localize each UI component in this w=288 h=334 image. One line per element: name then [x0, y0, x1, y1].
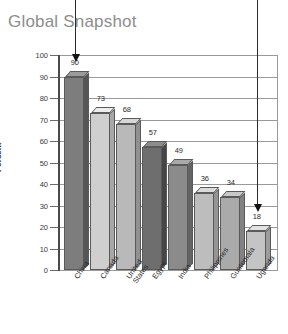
- y-axis-tick-label: 30: [22, 201, 48, 210]
- y-axis-tick-label: 40: [22, 180, 48, 189]
- y-axis-tick: [50, 184, 58, 185]
- y-axis-tick-label: 80: [22, 94, 48, 103]
- y-axis-tick: [50, 55, 58, 56]
- y-axis-tick-label: 0: [22, 266, 48, 275]
- y-axis-tick-label: 50: [22, 158, 48, 167]
- bar: 73: [90, 113, 111, 270]
- y-axis-tick: [50, 120, 58, 121]
- bar-side-face: [83, 72, 89, 269]
- gridline: [60, 270, 278, 271]
- y-axis-tick: [50, 141, 58, 142]
- plot-right-border: [277, 55, 278, 270]
- y-axis-tick-label: 10: [22, 244, 48, 253]
- bar-value-label: 18: [253, 212, 261, 221]
- bar-value-label: 49: [175, 146, 183, 155]
- bar: 57: [142, 147, 163, 270]
- y-axis-tick: [50, 163, 58, 164]
- y-axis-tick: [50, 77, 58, 78]
- bar: 68: [116, 124, 137, 270]
- bar: 49: [168, 165, 189, 270]
- y-axis-title: Percent: [0, 143, 3, 172]
- y-axis-tick: [50, 270, 58, 271]
- y-axis-tick: [50, 249, 58, 250]
- bar: 36: [194, 193, 215, 270]
- bar-side-face: [161, 143, 167, 269]
- bar-side-face: [135, 119, 141, 269]
- bar-side-face: [109, 109, 115, 269]
- y-axis-tick-label: 60: [22, 137, 48, 146]
- gridline: [60, 55, 278, 56]
- y-axis-tick: [50, 227, 58, 228]
- bar-value-label: 73: [97, 94, 105, 103]
- plot-area: 9073685749363418: [60, 55, 278, 270]
- y-axis-tick: [50, 206, 58, 207]
- bar-value-label: 34: [227, 178, 235, 187]
- arrow-head-icon: [72, 54, 80, 62]
- chart-container: Global Snapshot Percent 1009080706050403…: [0, 0, 288, 334]
- bar: 90: [64, 77, 85, 271]
- y-axis-tick-label: 100: [22, 51, 48, 60]
- bar-value-label: 36: [201, 174, 209, 183]
- y-axis-tick-label: 90: [22, 72, 48, 81]
- y-axis-tick: [50, 98, 58, 99]
- gridline: [60, 77, 278, 78]
- bar-value-label: 57: [149, 128, 157, 137]
- y-axis-tick-label: 20: [22, 223, 48, 232]
- y-axis-tick-label: 70: [22, 115, 48, 124]
- arrow-shaft: [75, 0, 76, 55]
- gridline: [60, 98, 278, 99]
- arrow-head-icon: [254, 204, 262, 212]
- arrow-shaft: [257, 0, 258, 205]
- bar-value-label: 68: [123, 105, 131, 114]
- chart-title: Global Snapshot: [8, 12, 137, 32]
- bar-side-face: [187, 160, 193, 269]
